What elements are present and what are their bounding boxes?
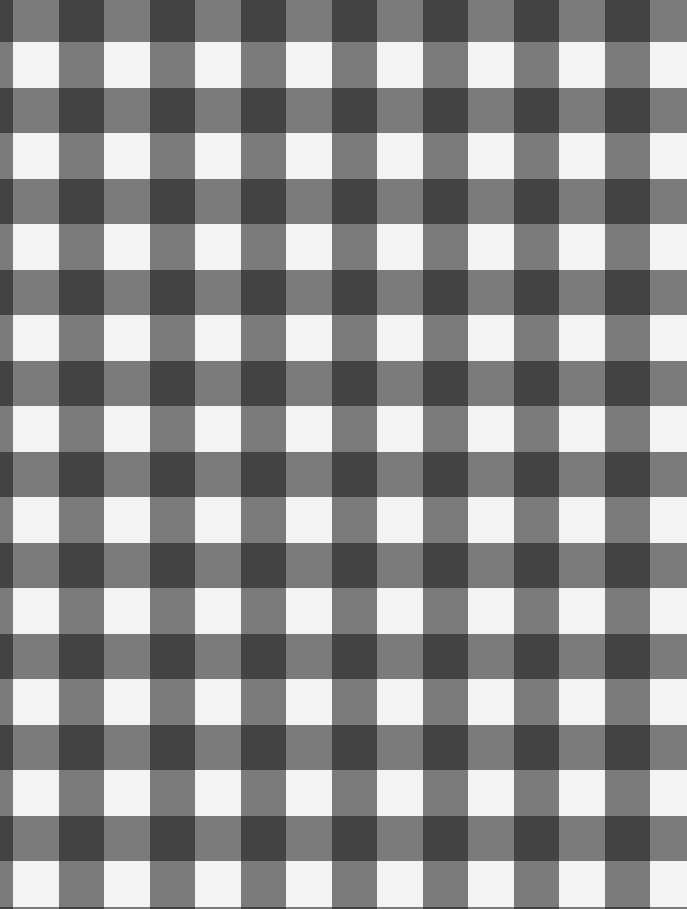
- gingham-pattern-background: [0, 0, 687, 909]
